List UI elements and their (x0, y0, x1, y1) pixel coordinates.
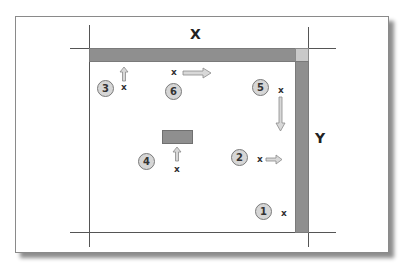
marker-6-badge: 6 (165, 83, 182, 100)
arrow-down-icon (276, 97, 285, 131)
y-axis-bar (295, 61, 309, 233)
marker-4-x: x (174, 164, 180, 174)
obstacle-block (162, 130, 193, 144)
marker-2-x: x (257, 154, 263, 164)
marker-5-x: x (278, 85, 284, 95)
x-axis-bar (89, 48, 296, 62)
arrow-right-icon (183, 68, 211, 78)
arrow-up-icon (173, 147, 181, 161)
corner-square (295, 48, 309, 62)
arrow-right-icon (266, 155, 282, 164)
x-axis-label: X (190, 26, 201, 42)
marker-6-x: x (171, 67, 177, 77)
marker-3-badge: 3 (97, 80, 114, 97)
marker-1-badge: 1 (255, 203, 272, 220)
marker-4-badge: 4 (138, 153, 155, 170)
y-axis-label: Y (315, 130, 325, 146)
marker-1-x: x (281, 208, 287, 218)
marker-5-badge: 5 (252, 79, 269, 96)
arrow-up-icon (120, 67, 128, 81)
marker-2-badge: 2 (231, 149, 248, 166)
marker-3-x: x (121, 82, 127, 92)
